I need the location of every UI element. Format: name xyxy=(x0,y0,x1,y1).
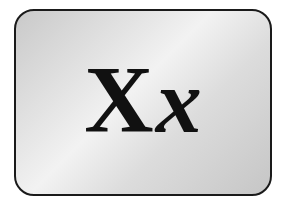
letter-pair: Xx xyxy=(16,52,270,148)
letter-card: Xx xyxy=(14,9,272,196)
uppercase-letter: X xyxy=(84,52,153,148)
lowercase-letter: x xyxy=(156,55,202,147)
